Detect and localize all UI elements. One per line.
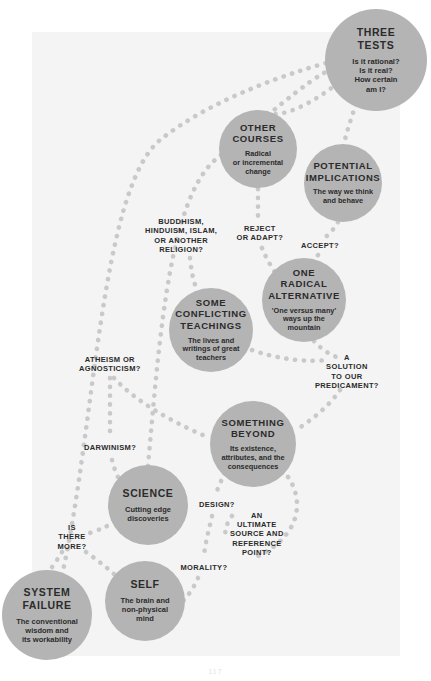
node-title: POTENTIAL IMPLICATIONS: [306, 160, 381, 183]
node-some-conflicting-teachings[interactable]: SOME CONFLICTING TEACHINGSThe lives and …: [169, 288, 253, 372]
node-title: ONE RADICAL ALTERNATIVE: [268, 267, 340, 302]
node-subtitle: Its existence, attributes, and the conse…: [221, 445, 284, 472]
connector-science-to-is-there-more: [86, 522, 115, 534]
edge-label-atheism-or-agnosticism: ATHEISM OR AGNOSTICISM?: [79, 355, 141, 374]
connector-design-to-morality: [204, 516, 212, 558]
node-subtitle: 'One versus many' ways up the mountain: [272, 307, 336, 334]
node-title: THREE TESTS: [357, 26, 396, 52]
connector-is-there-more-to-system-failure: [48, 552, 62, 572]
node-subtitle: The brain and non-physical mind: [120, 596, 169, 623]
diagram-page: THREE TESTSIs it rational? Is it real? H…: [0, 0, 431, 681]
edge-label-accept: ACCEPT?: [301, 241, 339, 250]
node-title: SCIENCE: [123, 487, 174, 500]
edge-label-is-there-more: IS THERE MORE?: [58, 523, 87, 551]
node-other-courses[interactable]: OTHER COURSESRadical or incremental chan…: [219, 110, 297, 188]
node-subtitle: Is it rational? Is it real? How certain …: [352, 57, 399, 94]
node-title: OTHER COURSES: [232, 122, 283, 145]
page-number: 117: [0, 668, 431, 675]
node-system-failure[interactable]: SYSTEM FAILUREThe conventional wisdom an…: [2, 570, 92, 660]
connector-potential-to-accept: [322, 222, 338, 238]
connector-is-there-more-to-self: [86, 552, 116, 576]
node-title: SOMETHING BEYOND: [222, 417, 285, 440]
edge-label-darwinism: DARWINISM?: [84, 443, 136, 452]
node-subtitle: The way we think and behave: [313, 188, 373, 206]
node-title: SYSTEM FAILURE: [22, 586, 71, 612]
node-self[interactable]: SELFThe brain and non-physical mind: [105, 561, 185, 641]
node-subtitle: Radical or incremental change: [233, 150, 283, 177]
edge-label-reject-or-adapt: REJECT OR ADAPT?: [237, 224, 284, 243]
connector-buddhism-to-conflicting: [190, 258, 200, 290]
connector-solution-to-something-beyond: [296, 390, 340, 430]
node-three-tests[interactable]: THREE TESTSIs it rational? Is it real? H…: [325, 9, 427, 111]
edge-label-buddhism: BUDDHISM, HINDUISM, ISLAM, OR ANOTHER RE…: [145, 217, 217, 255]
node-science[interactable]: SCIENCECutting edge discoveries: [108, 465, 188, 545]
node-potential-implications[interactable]: POTENTIAL IMPLICATIONSThe way we think a…: [304, 144, 382, 222]
node-title: SELF: [130, 578, 159, 591]
node-subtitle: Cutting edge discoveries: [125, 505, 171, 523]
connector-atheism-to-something-beyond: [114, 378, 210, 438]
edge-label-an-ultimate-source: AN ULTIMATE SOURCE AND REFERENCE POINT?: [230, 511, 284, 558]
node-title: SOME CONFLICTING TEACHINGS: [175, 297, 247, 332]
node-subtitle: The conventional wisdom and its workabil…: [16, 617, 78, 644]
connector-three-tests-to-potential: [344, 104, 356, 144]
node-subtitle: The lives and writings of great teachers: [183, 337, 240, 364]
node-something-beyond[interactable]: SOMETHING BEYONDIts existence, attribute…: [210, 401, 296, 487]
edge-label-morality: MORALITY?: [181, 563, 228, 572]
edge-label-design: DESIGN?: [199, 500, 235, 509]
edge-label-a-solution: A SOLUTION TO OUR PREDICAMENT?: [315, 353, 379, 391]
node-one-radical-alternative[interactable]: ONE RADICAL ALTERNATIVE'One versus many'…: [262, 258, 346, 342]
